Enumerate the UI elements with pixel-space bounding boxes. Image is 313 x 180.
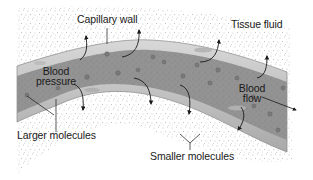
label-capillary-wall: Capillary wall xyxy=(77,14,137,25)
endothelial-cell xyxy=(228,106,246,111)
endothelial-cell xyxy=(84,88,100,92)
label-blood-pressure-line2: pressure xyxy=(33,76,79,87)
label-blood-flow-line2: flow xyxy=(236,93,268,104)
endothelial-cell xyxy=(194,48,212,53)
label-smaller-molecules: Smaller molecules xyxy=(150,151,234,162)
label-tissue-fluid: Tissue fluid xyxy=(231,19,283,30)
label-larger-molecules: Larger molecules xyxy=(17,130,96,141)
